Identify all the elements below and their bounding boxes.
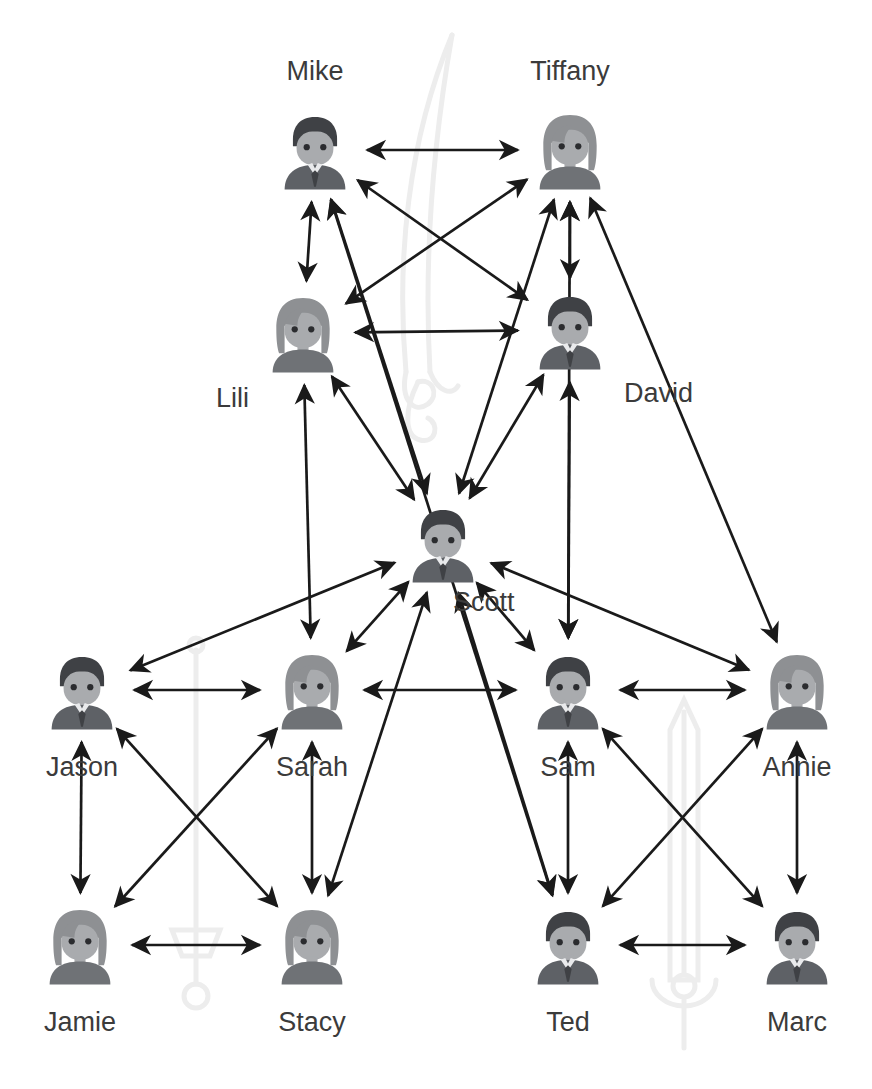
avatar-female-icon [266,644,358,736]
avatar [36,644,128,736]
avatar [524,104,616,196]
person-label-tiffany: Tiffany [530,58,610,85]
avatar-female-icon [266,899,358,991]
avatar-female-icon [34,899,126,991]
avatar-male-icon [522,644,614,736]
avatar [751,899,843,991]
avatar [266,644,358,736]
avatar-male-icon [522,899,614,991]
person-label-scott: Scott [453,589,515,616]
avatar-male-icon [524,284,616,376]
person-label-marc: Marc [767,1009,827,1036]
avatar-male-icon [36,644,128,736]
avatar [522,644,614,736]
avatar [269,104,361,196]
avatar [266,899,358,991]
avatar-male-icon [751,899,843,991]
avatar-male-icon [269,104,361,196]
avatar [397,497,489,589]
person-label-lili: Lili [216,385,249,412]
person-label-jamie: Jamie [44,1009,116,1036]
avatar-male-icon [397,497,489,589]
network-diagram: Mike Tiffany Lili David [0,0,872,1089]
avatar [751,644,843,736]
avatar-female-icon [257,287,349,379]
person-label-jason: Jason [46,754,118,781]
person-label-sarah: Sarah [276,754,348,781]
avatar-female-icon [751,644,843,736]
person-label-stacy: Stacy [278,1009,346,1036]
avatar-female-icon [524,104,616,196]
node-layer: Mike Tiffany Lili David [0,0,872,1089]
avatar [257,287,349,379]
avatar [524,284,616,376]
person-label-ted: Ted [546,1009,590,1036]
person-label-mike: Mike [286,58,343,85]
avatar [34,899,126,991]
person-label-annie: Annie [762,754,831,781]
person-label-david: David [624,380,693,407]
avatar [522,899,614,991]
person-label-sam: Sam [540,754,596,781]
